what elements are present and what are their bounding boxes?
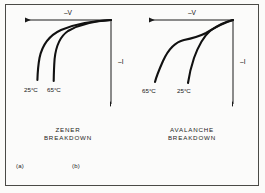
caption-zener-line1: ZENER [6, 126, 130, 134]
curve-avalanche-25c [188, 20, 233, 83]
panel-avalanche: –V –I 65°C 25°C AVALANCHE BREAKDOWN [130, 0, 254, 193]
curve-label-zener-65c: 65°C [47, 86, 61, 93]
x-axis-label: –V [188, 9, 197, 16]
curve-label-avalanche-25c: 25°C [177, 87, 191, 94]
curve-label-zener-25c: 25°C [24, 86, 38, 93]
caption-avalanche-line2: BREAKDOWN [130, 134, 254, 142]
y-axis-label: –I [240, 58, 246, 65]
caption-avalanche-line1: AVALANCHE [130, 126, 254, 134]
y-axis-label: –I [118, 58, 124, 65]
caption-avalanche: AVALANCHE BREAKDOWN [130, 126, 254, 143]
caption-zener-line2: BREAKDOWN [6, 134, 130, 142]
panel-letter-b: (b) [72, 163, 80, 169]
panel-zener: –V –I 25°C 65°C ZENER BREAKDOWN [6, 0, 130, 193]
zener-plot: –V –I 25°C 65°C [6, 6, 130, 126]
x-axis-label: –V [64, 9, 73, 16]
caption-zener: ZENER BREAKDOWN [6, 126, 130, 143]
avalanche-plot: –V –I 65°C 25°C [130, 6, 254, 126]
curve-avalanche-65c [155, 20, 233, 82]
curve-zener-25c [37, 20, 111, 80]
figure-root: –V –I 25°C 65°C ZENER BREAKDOWN [0, 0, 265, 193]
curve-label-avalanche-65c: 65°C [142, 87, 156, 94]
panel-letter-a: (a) [16, 163, 24, 169]
